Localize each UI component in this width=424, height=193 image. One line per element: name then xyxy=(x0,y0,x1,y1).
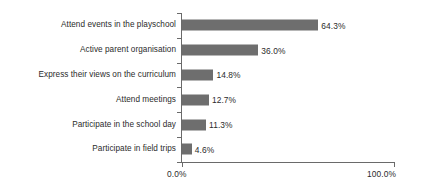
bar xyxy=(182,20,318,31)
x-axis-tick-min xyxy=(182,162,183,167)
bar-track: 4.6% xyxy=(182,144,394,155)
bar xyxy=(182,45,258,56)
bar xyxy=(182,69,213,80)
bar-row: Participate in the school day 11.3% xyxy=(0,112,424,137)
category-label: Participate in field trips xyxy=(92,144,176,154)
bar-value-label: 4.6% xyxy=(195,144,215,154)
bar xyxy=(182,94,209,105)
bar-value-label: 36.0% xyxy=(261,45,285,55)
bar-track: 12.7% xyxy=(182,94,394,105)
bar-value-label: 64.3% xyxy=(321,20,345,30)
bar-row: Express their views on the curriculum 14… xyxy=(0,63,424,88)
bar-row: Attend events in the playschool 64.3% xyxy=(0,13,424,38)
x-axis-line xyxy=(181,162,395,163)
category-label: Express their views on the curriculum xyxy=(39,70,176,80)
bar-track: 64.3% xyxy=(182,20,394,31)
bar-chart: Attend events in the playschool 64.3% Ac… xyxy=(0,0,424,193)
category-label: Participate in the school day xyxy=(72,120,176,130)
category-label: Attend meetings xyxy=(116,95,176,105)
bar-row: Participate in field trips 4.6% xyxy=(0,137,424,162)
category-label: Attend events in the playschool xyxy=(61,20,176,30)
bar-value-label: 14.8% xyxy=(216,70,240,80)
bar-track: 14.8% xyxy=(182,69,394,80)
bar-value-label: 12.7% xyxy=(212,95,236,105)
bar-track: 11.3% xyxy=(182,119,394,130)
x-axis-tick-label-max: 100.0% xyxy=(367,169,396,179)
bar xyxy=(182,119,206,130)
category-label: Active parent organisation xyxy=(80,45,176,55)
bar-value-label: 11.3% xyxy=(209,120,233,130)
bar-row: Attend meetings 12.7% xyxy=(0,87,424,112)
bar-track: 36.0% xyxy=(182,45,394,56)
x-axis-tick-max xyxy=(394,162,395,167)
bar xyxy=(182,144,192,155)
bar-row: Active parent organisation 36.0% xyxy=(0,38,424,63)
x-axis-tick-label-min: 0.0% xyxy=(167,169,187,179)
